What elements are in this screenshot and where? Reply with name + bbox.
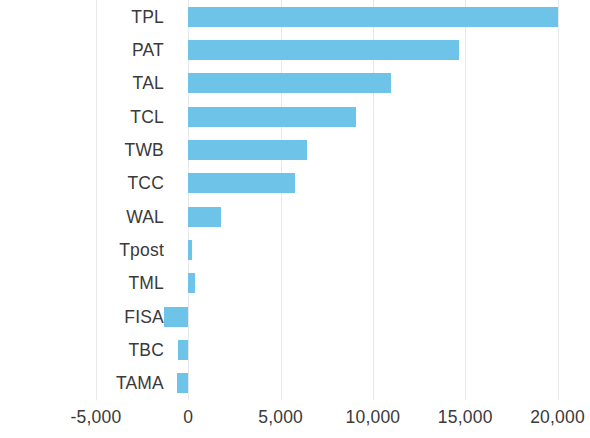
bar-tal[interactable] [188, 73, 391, 93]
bar-tcc[interactable] [188, 173, 295, 193]
gridline-15000 [465, 0, 466, 400]
bar-tpl[interactable] [188, 7, 557, 27]
bar-tbc[interactable] [178, 340, 188, 360]
bar-fisa[interactable] [164, 307, 188, 327]
gridline-20000 [558, 0, 559, 400]
plot-area [96, 0, 576, 400]
x-tick-label--5000: -5,000 [71, 407, 122, 428]
x-tick-label-10000: 10,000 [346, 407, 401, 428]
value-axis: -5,00005,00010,00015,00020,000 [96, 400, 576, 438]
bar-tama[interactable] [177, 373, 188, 393]
bar-wal[interactable] [188, 207, 220, 227]
gridline--5000 [96, 0, 97, 400]
x-tick-label-15000: 15,000 [438, 407, 493, 428]
x-tick-label-5000: 5,000 [258, 407, 303, 428]
bar-twb[interactable] [188, 140, 307, 160]
gridline-10000 [373, 0, 374, 400]
bar-tml[interactable] [188, 273, 194, 293]
bar-chart: TPLPATTALTCLTWBTCCWALTpostTMLFISATBCTAMA… [0, 0, 590, 438]
x-tick-label-20000: 20,000 [530, 407, 585, 428]
x-tick-label-0: 0 [183, 407, 193, 428]
bar-pat[interactable] [188, 40, 458, 60]
gridline-5000 [281, 0, 282, 400]
gridline-0 [188, 0, 189, 400]
bar-tcl[interactable] [188, 107, 355, 127]
bar-tpost[interactable] [188, 240, 192, 260]
